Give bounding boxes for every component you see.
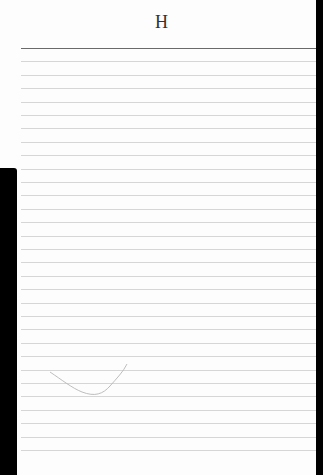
notebook-page: H bbox=[0, 0, 323, 475]
left-binding-tab bbox=[0, 168, 17, 475]
right-edge-shadow bbox=[316, 0, 323, 475]
pencil-scribble bbox=[0, 0, 323, 475]
